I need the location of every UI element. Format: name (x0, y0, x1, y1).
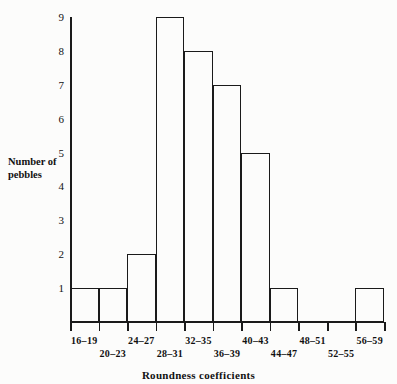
y-tick-label-7: 7 (44, 80, 64, 91)
y-tick-label-5: 5 (44, 148, 64, 159)
histogram-chart: Number of pebbles 987654321 16–1920–2324… (0, 0, 397, 384)
x-tick-mark (70, 322, 72, 331)
x-tick-label-24-27: 24–27 (112, 336, 170, 346)
x-tick-mark (355, 322, 357, 331)
y-axis-title: Number of pebbles (8, 156, 70, 181)
x-tick-mark (298, 322, 300, 331)
histogram-bar (156, 17, 185, 322)
x-tick-label-40-43: 40–43 (227, 336, 285, 346)
x-tick-mark (327, 322, 329, 331)
x-tick-mark (156, 322, 158, 331)
histogram-bar (241, 153, 270, 322)
x-tick-label-48-51: 48–51 (284, 336, 342, 346)
x-tick-mark (184, 322, 186, 331)
x-tick-mark (127, 322, 129, 331)
histogram-bar (270, 288, 299, 322)
x-tick-mark (384, 322, 386, 331)
x-tick-label-56-59: 56–59 (341, 336, 397, 346)
y-tick-label-9: 9 (44, 12, 64, 23)
y-tick-label-3: 3 (44, 215, 64, 226)
x-tick-mark (213, 322, 215, 331)
y-tick-label-1: 1 (44, 283, 64, 294)
histogram-bar (355, 288, 384, 322)
x-tick-label-44-47: 44–47 (255, 349, 313, 359)
x-tick-mark (270, 322, 272, 331)
plot-area (70, 17, 384, 322)
y-tick-label-2: 2 (44, 249, 64, 260)
histogram-bar (99, 288, 128, 322)
x-tick-mark (99, 322, 101, 331)
y-tick-label-6: 6 (44, 114, 64, 125)
x-tick-label-28-31: 28–31 (141, 349, 199, 359)
y-tick-label-8: 8 (44, 46, 64, 57)
x-tick-label-20-23: 20–23 (84, 349, 142, 359)
y-axis-title-line-2: pebbles (8, 169, 70, 182)
x-axis-title: Roundness coefficients (0, 369, 397, 381)
x-tick-label-16-19: 16–19 (55, 336, 113, 346)
x-tick-label-52-55: 52–55 (312, 349, 370, 359)
x-tick-label-32-35: 32–35 (169, 336, 227, 346)
histogram-bar (70, 288, 99, 322)
histogram-bar (213, 85, 242, 322)
histogram-bar (184, 51, 213, 322)
x-tick-mark (241, 322, 243, 331)
x-tick-label-36-39: 36–39 (198, 349, 256, 359)
histogram-bar (127, 254, 156, 322)
y-tick-label-4: 4 (44, 181, 64, 192)
